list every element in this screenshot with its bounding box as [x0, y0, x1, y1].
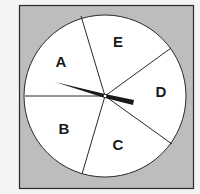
- sector-label-b: B: [59, 120, 70, 137]
- sector-label-d: D: [156, 83, 167, 100]
- sector-label-c: C: [113, 136, 124, 153]
- spinner-figure: A E D C B: [0, 0, 200, 194]
- pointer-pivot: [103, 94, 107, 98]
- sector-label-a: A: [56, 53, 67, 70]
- sector-label-e: E: [113, 33, 123, 50]
